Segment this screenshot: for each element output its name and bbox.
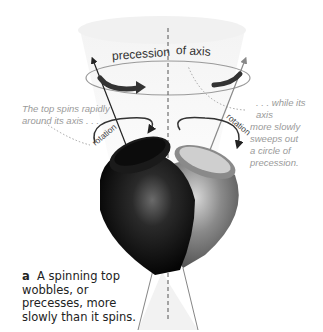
note-right-line: precession. (250, 157, 323, 169)
note-right-line: more slowly (250, 121, 323, 133)
of-axis-label: of axis (176, 43, 211, 59)
note-left-line: around its axis . . . (22, 115, 112, 127)
caption-text: A spinning top wobbles, or precesses, mo… (22, 269, 136, 324)
note-right-line: sweeps out (250, 133, 323, 145)
caption-letter: a (22, 269, 30, 283)
note-left: The top spins rapidly around its axis . … (22, 103, 112, 127)
note-right: . . . while its axis more slowly sweeps … (250, 97, 323, 169)
note-left-line: The top spins rapidly (22, 103, 112, 115)
figure-caption: a A spinning top wobbles, or precesses, … (22, 270, 152, 324)
note-right-line: a circle of (250, 145, 323, 157)
note-right-line: . . . while its axis (256, 97, 323, 121)
